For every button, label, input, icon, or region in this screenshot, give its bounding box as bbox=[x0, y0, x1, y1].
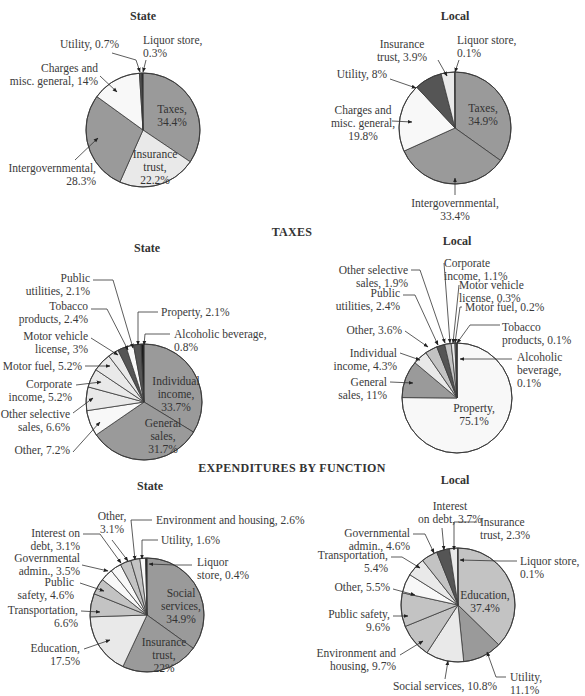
label-other: Other, 3.6% bbox=[347, 324, 403, 337]
label-liquor-store: Liquor store,0.1% bbox=[520, 555, 580, 580]
label-environment-housing: Environment and housing, 2.6% bbox=[156, 514, 305, 527]
label-transportation: Transportation,5.4% bbox=[318, 549, 389, 574]
label-motor-vehicle-license: Motor vehiclelicense, 3% bbox=[23, 330, 88, 356]
revenue-local-title: Local bbox=[441, 9, 470, 23]
label-property: Property, 2.1% bbox=[161, 306, 230, 319]
label-charges-misc: Charges andmisc. general, 14% bbox=[10, 62, 99, 88]
label-public-utilities: Publicutilities, 2.1% bbox=[26, 272, 91, 298]
label-intergovernmental: Intergovernmental,33.4% bbox=[411, 197, 499, 222]
label-insurance-trust: Insurancetrust, 2.3% bbox=[480, 516, 531, 542]
label-public-safety: Publicsafety, 4.6% bbox=[18, 576, 75, 602]
label-intergovernmental: Intergovernmental,28.3% bbox=[8, 162, 96, 187]
label-utility: Utility, 1.6% bbox=[161, 534, 220, 547]
label-governmental-admin: Governmentaladmin., 3.5% bbox=[14, 552, 80, 578]
label-charges-misc: Charges andmisc. general,19.8% bbox=[331, 104, 395, 142]
label-motor-fuel: Motor fuel, 5.2% bbox=[3, 360, 83, 373]
label-general-sales: Generalsales, 11% bbox=[338, 376, 387, 402]
label-liquor-store: Liquor store,0.3% bbox=[143, 34, 203, 59]
label-utility: Utility, 0.7% bbox=[60, 38, 119, 51]
label-tobacco-products: Tobaccoproducts, 2.4% bbox=[19, 300, 89, 326]
label-alcoholic-beverage: Alcoholicbeverage,0.1% bbox=[517, 351, 562, 389]
label-utility: Utility, 8% bbox=[337, 68, 388, 81]
label-social-services: Socialservices,34.9% bbox=[161, 587, 201, 625]
label-social-services: Social services, 10.8% bbox=[393, 680, 498, 693]
expenditures-local-title: Local bbox=[441, 473, 470, 487]
label-property: Property,75.1% bbox=[453, 402, 495, 427]
label-alcoholic-beverage: Alcoholic beverage,0.8% bbox=[174, 328, 267, 353]
label-interest-on-debt: Interest ondebt, 3.1% bbox=[30, 527, 80, 553]
label-other: Other,3.1% bbox=[98, 510, 127, 535]
label-taxes: Taxes,34.4% bbox=[157, 103, 187, 128]
label-education: Education,17.5% bbox=[31, 642, 81, 667]
label-liquor-store: Liquorstore, 0.4% bbox=[197, 556, 249, 582]
label-other: Other, 7.2% bbox=[15, 444, 71, 457]
expenditures-state-title: State bbox=[137, 479, 164, 493]
charts-canvas: State Local TAXES State Local EXPENDITUR… bbox=[0, 0, 585, 696]
taxes-local-title: Local bbox=[443, 234, 472, 248]
label-public-safety: Public safety,9.6% bbox=[328, 608, 390, 633]
label-insurance-trust: Insurancetrust, 3.9% bbox=[377, 38, 428, 64]
taxes-state-title: State bbox=[134, 241, 161, 255]
label-public-utilities: Publicutilities, 2.4% bbox=[336, 287, 401, 313]
label-transportation: Transportation,6.6% bbox=[8, 604, 79, 629]
label-utility: Utility,11.1% bbox=[510, 671, 542, 696]
label-other: Other, 5.5% bbox=[335, 581, 391, 594]
label-corporate-income: Corporateincome, 5.2% bbox=[8, 378, 72, 404]
revenue-state-title: State bbox=[130, 9, 157, 23]
label-tobacco-products: Tobaccoproducts, 0.1% bbox=[502, 321, 572, 347]
pie-revenue-local bbox=[399, 72, 511, 184]
section-expenditures-title: EXPENDITURES BY FUNCTION bbox=[198, 461, 385, 475]
section-taxes-title: TAXES bbox=[272, 225, 313, 239]
label-individual-income: Individualincome, 4.3% bbox=[333, 347, 397, 373]
label-environment-housing: Environment andhousing, 9.7% bbox=[316, 647, 396, 673]
label-liquor-store: Liquor store,0.1% bbox=[457, 34, 517, 59]
label-other-selective-sales: Other selectivesales, 6.6% bbox=[1, 408, 71, 434]
label-taxes: Taxes,34.9% bbox=[468, 102, 498, 127]
label-motor-fuel: Motor fuel, 0.2% bbox=[465, 301, 545, 314]
